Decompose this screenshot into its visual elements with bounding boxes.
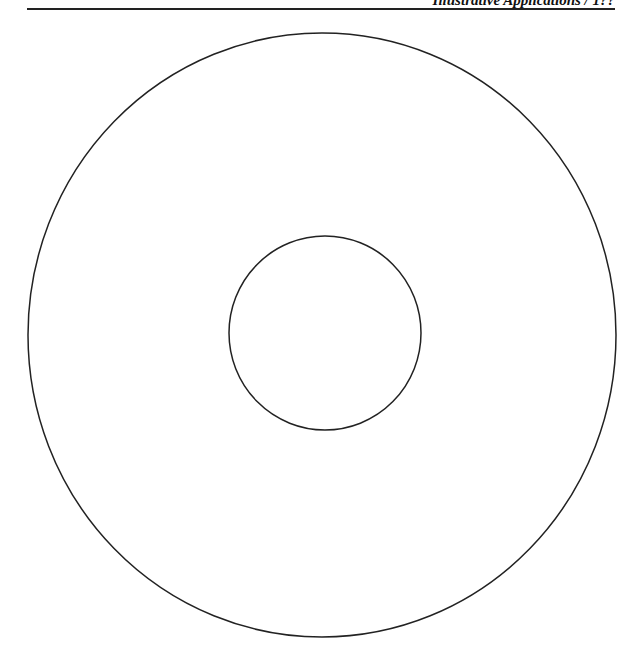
outer-circle <box>28 33 616 637</box>
concentric-circles-figure <box>0 0 642 662</box>
inner-circle <box>229 236 421 430</box>
